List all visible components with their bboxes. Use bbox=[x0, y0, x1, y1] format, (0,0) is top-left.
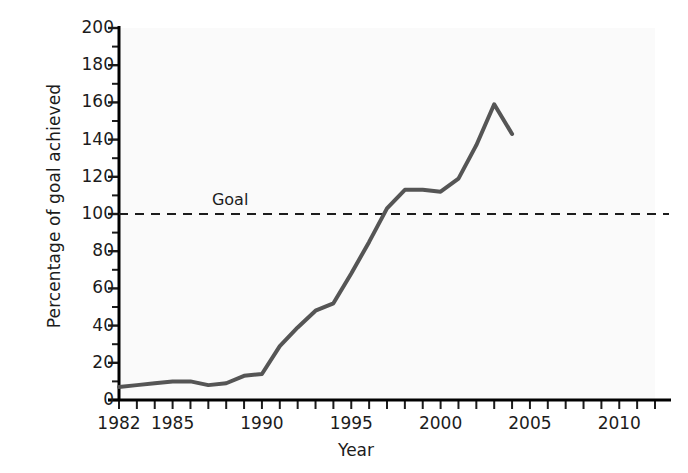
x-axis-tick-label: 1995 bbox=[330, 413, 373, 433]
chart-figure: 020406080100120140160180200 198219851990… bbox=[0, 0, 688, 473]
x-axis-tick-labels: 1982198519901995200020052010 bbox=[0, 0, 688, 473]
x-axis-tick-label: 1985 bbox=[151, 413, 194, 433]
x-axis-title: Year bbox=[0, 440, 688, 460]
x-axis-tick-label: 2005 bbox=[508, 413, 551, 433]
x-axis-tick-label: 2000 bbox=[419, 413, 462, 433]
x-axis-tick-label: 1990 bbox=[240, 413, 283, 433]
x-axis-tick-label: 2010 bbox=[598, 413, 641, 433]
y-axis-title: Percentage of goal achieved bbox=[44, 56, 64, 356]
x-axis-title-text: Year bbox=[338, 440, 374, 460]
goal-reference-label: Goal bbox=[212, 190, 248, 209]
x-axis-tick-label: 1982 bbox=[97, 413, 140, 433]
